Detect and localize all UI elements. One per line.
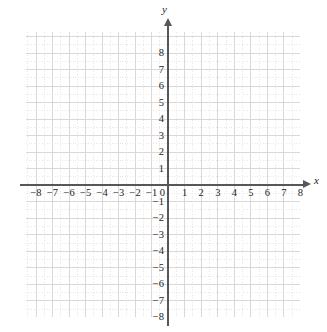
- y-tick-label: 8: [144, 48, 164, 59]
- y-tick-label: 7: [144, 65, 164, 76]
- y-tick-label: −6: [144, 279, 164, 290]
- y-tick-label: 4: [144, 114, 164, 125]
- y-tick-label: −2: [144, 213, 164, 224]
- y-tick-label: −4: [144, 246, 164, 257]
- y-tick-label: −1: [144, 197, 164, 208]
- y-tick-label: 6: [144, 81, 164, 92]
- y-tick-label: −7: [144, 296, 164, 307]
- y-tick-label: −3: [144, 230, 164, 241]
- y-tick-label: 5: [144, 98, 164, 109]
- y-tick-label: −8: [144, 312, 164, 323]
- x-axis-line: [20, 184, 305, 186]
- y-tick-label: −5: [144, 263, 164, 274]
- y-tick-label: 2: [144, 147, 164, 158]
- y-tick-label: 3: [144, 131, 164, 142]
- y-axis-label: y: [162, 4, 167, 15]
- coordinate-plane-figure: x y 0 −8−7−6−5−4−3−2−112345678 87654321−…: [0, 0, 327, 332]
- y-axis-line: [167, 26, 169, 326]
- x-tick-label: 8: [290, 188, 310, 199]
- x-axis-label: x: [314, 175, 319, 186]
- y-tick-label: 1: [144, 164, 164, 175]
- y-axis-arrow-icon: [164, 18, 172, 26]
